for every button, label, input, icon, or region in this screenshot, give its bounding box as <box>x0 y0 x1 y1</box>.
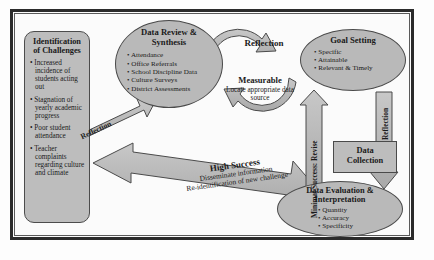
data-review-synthesis-node: Data Review & Synthesis Attendance Offic… <box>115 20 223 108</box>
data-collection-line1: Data <box>334 146 396 156</box>
measurable-loop-label: Measurable Locate appropriate data sourc… <box>222 76 298 102</box>
diagram-canvas: Identification of Challenges Increased i… <box>0 0 434 260</box>
list-item: Poor student attendance <box>29 124 85 140</box>
list-item: Specificity <box>318 222 402 230</box>
list-item: District Assessments <box>127 85 222 93</box>
list-item: Teacher complaints regarding culture and… <box>29 145 85 178</box>
measurable-title: Measurable <box>222 76 298 86</box>
challenges-header-line2: of Challenges <box>33 46 81 55</box>
list-item: Culture Surveys <box>127 76 222 84</box>
goal-setting-list: Specific Attainable Relevant & Timely <box>301 48 405 73</box>
list-item: Accuracy <box>318 214 402 222</box>
data-evaluation-list: Quantity Accuracy Specificity <box>278 206 402 231</box>
list-item: Quantity <box>318 206 402 214</box>
data-review-header: Data Review & Synthesis <box>116 28 222 47</box>
challenges-header: Identification of Challenges <box>29 37 85 56</box>
data-collection-node: Data Collection <box>333 141 397 173</box>
reflection-loop-label: Reflection <box>228 38 300 48</box>
data-evaluation-interpretation-node: Data Evaluation & Interpretation Quantit… <box>277 181 403 237</box>
list-item: Office Referrals <box>127 60 222 68</box>
goal-setting-node: Goal Setting Specific Attainable Relevan… <box>300 29 406 91</box>
data-collection-line2: Collection <box>334 156 396 166</box>
data-review-header-line1: Data Review & <box>141 27 197 37</box>
list-item: Stagnation of yearly academic progress <box>29 96 85 121</box>
list-item: Attainable <box>314 56 405 64</box>
reflection-right-label: Reflection <box>381 108 390 140</box>
list-item: Attendance <box>127 51 222 59</box>
list-item: School Discipline Data <box>127 68 222 76</box>
measurable-subtitle: Locate appropriate data source <box>222 86 298 102</box>
identification-of-challenges-panel: Identification of Challenges Increased i… <box>24 31 90 223</box>
list-item: Relevant & Timely <box>314 64 405 72</box>
challenges-list: Increased incidence of students acting o… <box>29 59 85 178</box>
data-review-header-line2: Synthesis <box>152 37 186 47</box>
minimal-success-revise-label: Minimal Success: Revise <box>310 140 319 218</box>
data-evaluation-header: Data Evaluation & Interpretation <box>278 186 402 205</box>
list-item: Specific <box>314 48 405 56</box>
goal-setting-header: Goal Setting <box>301 36 405 46</box>
data-evaluation-header-line2: Interpretation <box>314 195 365 204</box>
list-item: Increased incidence of students acting o… <box>29 59 85 92</box>
challenges-header-line1: Identification <box>33 37 81 46</box>
data-review-list: Attendance Office Referrals School Disci… <box>116 51 222 93</box>
